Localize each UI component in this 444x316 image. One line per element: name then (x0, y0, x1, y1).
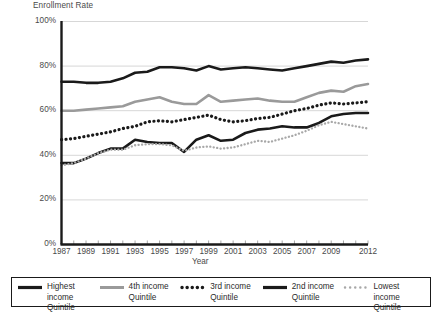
x-tick-label: 1993 (126, 247, 144, 256)
legend-item-label: 3rd income Quintile (210, 282, 251, 303)
x-tick-label: 1991 (101, 247, 119, 256)
x-tick-label: 1995 (150, 247, 168, 256)
solid-black-line-icon (262, 282, 288, 293)
chart-plot-area (0, 0, 444, 316)
legend-item-label: 4th income Quintile (129, 282, 169, 303)
x-tick-label: 2001 (224, 247, 242, 256)
legend-item[interactable]: 4th income Quintile (99, 282, 181, 303)
solid-gray-line-icon (99, 282, 125, 293)
y-tick-label: 60% (22, 105, 56, 114)
legend-item[interactable]: Lowest income Quintile (343, 282, 425, 314)
x-tick-label: 1987 (52, 247, 70, 256)
y-tick-label: 0% (22, 239, 56, 248)
series-line (62, 122, 369, 165)
y-tick-label: 20% (22, 194, 56, 203)
legend-item[interactable]: 2nd income Quintile (262, 282, 344, 303)
dotted-gray-line-icon (343, 282, 369, 293)
enrollment-rate-chart: Enrollment Rate 0%20%40%60%80%100% 19871… (0, 0, 444, 316)
y-tick-label: 40% (22, 150, 56, 159)
legend-item-label: Lowest income Quintile (373, 282, 425, 314)
x-tick-label: 2003 (249, 247, 267, 256)
x-tick-label: 1997 (175, 247, 193, 256)
x-tick-label: 2012 (359, 247, 377, 256)
x-tick-label: 2009 (322, 247, 340, 256)
legend-item-label: 2nd income Quintile (292, 282, 334, 303)
x-tick-label: 1989 (77, 247, 95, 256)
dotted-black-line-icon (180, 282, 206, 293)
legend-item[interactable]: 3rd income Quintile (180, 282, 262, 303)
chart-legend: Highest income Quintile4th income Quinti… (11, 277, 431, 307)
legend-item[interactable]: Highest income Quintile (17, 282, 99, 314)
x-tick-label: 2005 (273, 247, 291, 256)
y-tick-label: 100% (22, 16, 56, 25)
legend-item-label: Highest income Quintile (47, 282, 99, 314)
x-tick-label: 1999 (200, 247, 218, 256)
gridlines (62, 22, 369, 200)
y-tick-label: 80% (22, 61, 56, 70)
series-lines (62, 59, 369, 165)
series-line (62, 84, 369, 111)
x-tick-label: 2007 (298, 247, 316, 256)
solid-black-line-icon (17, 282, 43, 293)
x-axis-title: Year (192, 257, 209, 266)
series-line (62, 59, 369, 82)
